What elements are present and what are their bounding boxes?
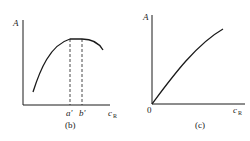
x-label-sub-b: R	[113, 113, 117, 119]
tick-a-prime: a'	[66, 108, 74, 118]
panel-c: A 0 c R (c)	[142, 12, 245, 130]
x-label-sub-c: R	[238, 110, 242, 116]
diagram-canvas: A a' b' c R (b) A 0 c R (c)	[0, 0, 250, 141]
x-label-c: c	[233, 105, 237, 115]
caption-c: (c)	[195, 120, 205, 130]
origin-label: 0	[147, 105, 152, 115]
x-label-b: c	[108, 108, 112, 118]
caption-b: (b)	[65, 120, 76, 130]
curve-c	[152, 29, 223, 104]
panel-b: A a' b' c R (b)	[12, 18, 117, 130]
curve-b	[33, 39, 103, 92]
tick-b-prime: b'	[79, 108, 87, 118]
y-label-c: A	[142, 12, 149, 22]
y-label-b: A	[12, 18, 19, 28]
